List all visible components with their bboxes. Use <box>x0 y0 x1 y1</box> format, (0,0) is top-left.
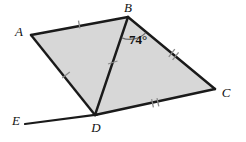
vertex-label-a: A <box>14 24 23 39</box>
angle-measure-label: 74° <box>129 32 147 47</box>
vertex-label-d: D <box>90 120 101 135</box>
vertex-label-b: B <box>124 0 132 15</box>
segment-ed <box>25 115 97 124</box>
vertex-label-c: C <box>222 85 231 100</box>
geometry-figure: A B C D E 74° <box>0 0 246 142</box>
vertex-label-e: E <box>11 113 20 128</box>
